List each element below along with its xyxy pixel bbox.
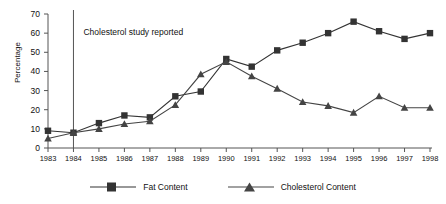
series-line-cholesterol-content <box>48 62 430 139</box>
data-point <box>249 63 255 69</box>
legend-item-fat-content: Fat Content <box>90 181 187 193</box>
plot-area <box>0 0 446 204</box>
y-tick-label: 30 <box>18 86 40 96</box>
legend-label-fat-content: Fat Content <box>143 182 187 192</box>
y-tick-label: 0 <box>18 143 40 153</box>
data-point <box>350 18 356 24</box>
data-point <box>427 30 433 36</box>
data-point <box>121 112 127 118</box>
data-point <box>172 93 178 99</box>
y-tick-label: 10 <box>18 124 40 134</box>
y-tick-label: 20 <box>18 105 40 115</box>
legend-item-cholesterol-content: Cholesterol Content <box>228 181 356 193</box>
data-point <box>376 28 382 34</box>
annotation-label: Cholesterol study reported <box>83 27 183 37</box>
line-chart: Percentage Cholesterol study reported Fa… <box>0 0 446 204</box>
data-point <box>375 93 383 100</box>
data-point <box>273 85 281 92</box>
legend-marker-triangle <box>228 181 274 193</box>
x-tick-label: 1998 <box>415 154 445 163</box>
data-point <box>198 88 204 94</box>
chart-legend: Fat Content Cholesterol Content <box>0 181 446 193</box>
y-tick-label: 70 <box>18 9 40 19</box>
y-tick-label: 50 <box>18 47 40 57</box>
data-point <box>45 128 51 134</box>
data-point <box>274 47 280 53</box>
data-point <box>248 72 256 79</box>
y-tick-label: 40 <box>18 66 40 76</box>
series-line-fat-content <box>48 22 430 133</box>
data-point <box>325 30 331 36</box>
legend-label-cholesterol-content: Cholesterol Content <box>281 182 356 192</box>
data-point <box>299 40 305 46</box>
data-point <box>197 71 205 78</box>
data-point <box>401 36 407 42</box>
data-point <box>299 98 307 105</box>
legend-marker-square <box>90 181 136 193</box>
y-tick-label: 60 <box>18 28 40 38</box>
